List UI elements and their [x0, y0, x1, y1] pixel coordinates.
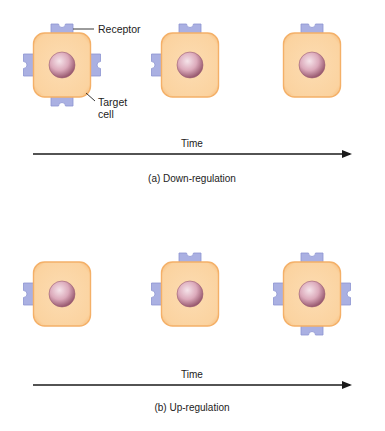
- cell-row-up-regulation: [24, 253, 351, 335]
- target-cell: [24, 24, 101, 106]
- receptor-label: Receptor: [98, 23, 141, 35]
- nucleus: [49, 281, 75, 307]
- nucleus: [177, 52, 203, 78]
- panel-up-regulation: Time (b) Up-regulation: [24, 253, 351, 413]
- target-cell: [152, 253, 219, 326]
- target-cell-label-line2: cell: [98, 108, 114, 120]
- panel-caption: (b) Up-regulation: [154, 402, 229, 413]
- panel-caption: (a) Down-regulation: [148, 173, 236, 184]
- target-cell-leader-line: [86, 93, 95, 101]
- cell-row-down-regulation: [24, 24, 341, 106]
- nucleus: [49, 52, 75, 78]
- target-cell: [152, 24, 219, 97]
- nucleus: [177, 281, 203, 307]
- time-axis-label: Time: [181, 369, 203, 380]
- nucleus: [299, 281, 325, 307]
- target-cell: [284, 24, 341, 97]
- panel-down-regulation: Receptor Target cell Time (a) Down-regul…: [24, 23, 351, 184]
- target-cell: [274, 253, 351, 335]
- time-axis-label: Time: [181, 138, 203, 149]
- nucleus: [299, 52, 325, 78]
- target-cell-label-line1: Target: [98, 96, 127, 108]
- receptor-regulation-diagram: Receptor Target cell Time (a) Down-regul…: [0, 0, 385, 431]
- target-cell: [24, 262, 91, 326]
